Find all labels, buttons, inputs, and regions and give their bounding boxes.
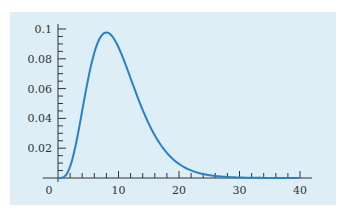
x-tick-label: 30 xyxy=(233,184,247,197)
x-tick-label: 0 xyxy=(46,184,53,197)
y-tick-label: 0.08 xyxy=(28,53,53,66)
x-tick-label: 20 xyxy=(172,184,186,197)
x-tick-label: 10 xyxy=(112,184,126,197)
x-tick-label: 40 xyxy=(293,184,307,197)
y-tick-label: 0.04 xyxy=(28,112,53,125)
y-tick-label: 0.02 xyxy=(28,142,53,155)
density-curve xyxy=(58,32,299,178)
chart: 0102030400.020.040.060.080.1 xyxy=(0,0,343,213)
y-tick-label: 0.1 xyxy=(35,23,53,36)
y-tick-label: 0.06 xyxy=(28,83,53,96)
